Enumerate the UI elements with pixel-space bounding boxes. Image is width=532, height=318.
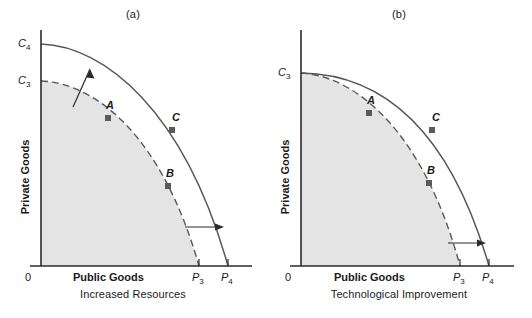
panel-a: (a) [0,0,266,318]
x-tick-label-p4: P4 [482,271,494,286]
point-a-marker [366,110,372,116]
x-axis-title: Public Goods [73,271,144,283]
x-tick-p3-sub: 3 [199,277,203,286]
shaded-area-original-ppf [41,81,199,266]
panel-b-caption: Technological Improvement [266,288,532,300]
x-tick-p4-sub: 4 [489,277,493,286]
point-label-b: B [166,167,174,179]
y-axis-title: Private Goods [279,112,291,242]
point-c-marker [169,127,175,133]
point-label-a: A [367,94,375,106]
panel-a-caption: Increased Resources [0,288,266,300]
x-tick-label-p3: P3 [453,271,465,286]
point-label-c: C [172,111,180,123]
point-b-marker [165,183,171,189]
point-label-c: C [432,111,440,123]
point-b-marker [426,180,432,186]
y-tick-label-c3: C3 [18,74,30,89]
point-label-b: B [427,164,435,176]
y-tick-c3-sub: 3 [26,80,30,89]
origin-label: 0 [25,271,31,283]
panel-b: (b) C3 [266,0,532,318]
arrow-outward-shift-lower [185,224,224,231]
point-label-a: A [106,99,114,111]
x-tick-p4-sub: 4 [228,277,232,286]
origin-label: 0 [285,271,291,283]
shaded-area-original-ppf [301,73,460,266]
y-tick-c3-letter: C [278,66,286,78]
y-tick-c3-letter: C [18,74,26,86]
y-tick-c4-letter: C [18,37,26,49]
point-a-marker [105,115,111,121]
ppf-figure: (a) [0,0,532,318]
x-tick-label-p4: P4 [221,271,233,286]
y-tick-label-c3: C3 [278,66,290,81]
x-axis-title: Public Goods [334,271,405,283]
y-tick-label-c4: C4 [18,37,30,52]
y-axis-title: Private Goods [19,112,31,242]
y-tick-c3-sub: 3 [286,72,290,81]
y-tick-c4-sub: 4 [26,43,30,52]
point-c-marker [429,127,435,133]
x-tick-label-p3: P3 [192,271,204,286]
x-tick-p3-sub: 3 [460,277,464,286]
